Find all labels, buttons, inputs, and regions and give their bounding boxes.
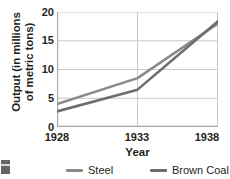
- y-tick-label-20: 20: [34, 7, 54, 18]
- x-tick-label-1928: 1928: [34, 131, 80, 143]
- plot-svg: [57, 12, 218, 127]
- legend-item-steel: Steel: [66, 163, 113, 177]
- line-chart-figure: Output (in millions of metric tons) 20 1…: [0, 0, 230, 179]
- y-tick-label-5: 5: [34, 93, 54, 104]
- x-axis-title: Year: [57, 146, 218, 158]
- plot-area: [57, 12, 218, 127]
- x-tick-label-1933: 1933: [114, 131, 160, 143]
- legend-swatch-brown-coal: [150, 169, 167, 172]
- x-axis-tick-labels: 1928 1933 1938: [34, 131, 230, 147]
- scan-artifact-mark: [1, 160, 10, 174]
- chart-legend: Steel Brown Coal: [60, 163, 230, 177]
- y-tick-label-10: 10: [34, 64, 54, 75]
- legend-label-steel: Steel: [88, 164, 113, 176]
- x-tick-label-1938: 1938: [184, 131, 230, 143]
- y-axis-title-line-1: Output (in millions: [10, 0, 23, 128]
- y-tick-label-15: 15: [34, 35, 54, 46]
- legend-item-brown-coal: Brown Coal: [150, 163, 229, 177]
- y-axis-tick-labels: 20 15 10 5 0: [28, 0, 54, 140]
- legend-swatch-steel: [66, 169, 83, 172]
- legend-label-brown-coal: Brown Coal: [172, 164, 229, 176]
